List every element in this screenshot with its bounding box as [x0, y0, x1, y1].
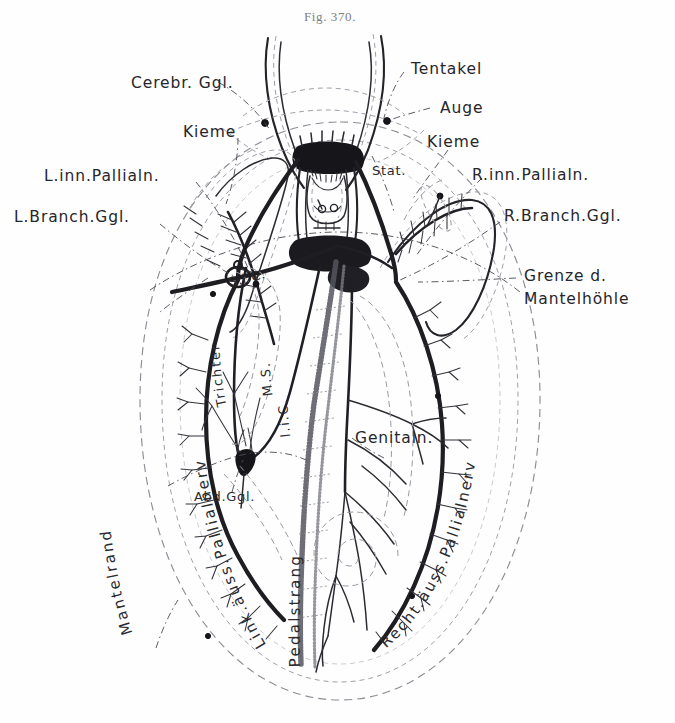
head-tentacle-group	[222, 34, 424, 230]
label-funnel: Trichter	[207, 343, 229, 410]
label-cerebral-ganglion: Cerebr. Ggl.	[131, 74, 233, 92]
eye-right-marker	[384, 118, 391, 125]
label-genital-nerve: Genitaln.	[355, 429, 433, 447]
label-statocyst: Stat.	[372, 163, 406, 178]
label-sic: S.i.C.	[227, 266, 267, 290]
leader-kieme-left	[226, 138, 238, 204]
leader-mantelrand-upper	[160, 278, 208, 312]
label-gill-left: Kieme	[183, 123, 236, 141]
leader-tentakel	[384, 72, 404, 118]
page-bleedthrough-text	[200, 0, 202, 9]
label-mantle-edge: Mantelrand	[97, 528, 137, 638]
label-ms: M.S.	[258, 361, 276, 397]
leader-l-inn-pallialn	[196, 182, 248, 268]
label-tentacle: Tentakel	[410, 60, 482, 78]
osphradium-right	[330, 204, 337, 211]
figure-container: Fig. 370.	[0, 0, 675, 723]
label-eye: Auge	[440, 99, 483, 117]
label-left-inner-pallial-nerve: L.inn.Pallialn.	[44, 167, 160, 185]
leader-auge	[390, 108, 430, 120]
anatomical-diagram: Fig. 370.	[0, 0, 675, 723]
left-fringe-node-2	[205, 633, 210, 638]
label-right-inner-pallial-nerve: R.inn.Pallialn.	[472, 166, 589, 184]
label-mantle-cavity-border-line2: Mantelhöhle	[524, 290, 630, 308]
mantle-outline-group	[140, 122, 540, 700]
label-pedal-cord: Pedalstrang	[286, 554, 305, 668]
leader-grenze-mantelhoehle	[418, 278, 516, 282]
label-gill-right: Kieme	[427, 133, 480, 151]
label-lic: l.i.C.	[275, 397, 293, 438]
label-left-outer-pallial-nerve: Link.äuss.Pallialnerv	[191, 457, 270, 652]
figure-caption: Fig. 370.	[304, 9, 356, 24]
right-fringe-node-1	[435, 393, 440, 398]
leader-r-branch-ggl	[400, 222, 500, 280]
left-fringe-node-1	[210, 291, 215, 296]
label-left-branchial-ganglion: L.Branch.Ggl.	[14, 208, 130, 226]
leader-mantelrand	[156, 600, 178, 648]
label-right-branchial-ganglion: R.Branch.Ggl.	[504, 207, 622, 225]
gill-right-group	[380, 180, 507, 340]
leader-l-branch-ggl	[160, 224, 234, 276]
label-mantle-cavity-border-line1: Grenze d.	[524, 267, 607, 285]
visceral-ganglion-mass	[289, 236, 371, 272]
